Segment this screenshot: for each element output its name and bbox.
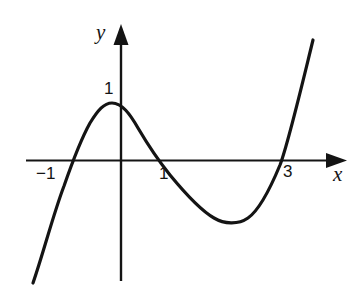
y-tick-label-1: 1 bbox=[104, 80, 113, 97]
y-axis-label: y bbox=[96, 22, 105, 43]
y-axis-arrowhead bbox=[114, 24, 129, 45]
x-tick-label-3: 3 bbox=[283, 163, 292, 180]
plot-canvas bbox=[0, 0, 355, 297]
x-tick-label-1: 1 bbox=[159, 165, 168, 182]
x-tick-label-minus-1: −1 bbox=[36, 165, 55, 182]
graph-figure: y x 1 −1 1 3 bbox=[0, 0, 355, 297]
x-axis-label: x bbox=[333, 164, 342, 185]
